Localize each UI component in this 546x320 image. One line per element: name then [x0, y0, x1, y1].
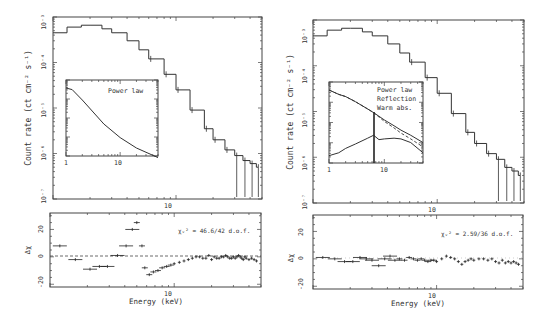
right-inset-xtick-1: 1	[327, 166, 331, 174]
right-res-ytick-neg20: -20	[297, 278, 305, 290]
left-ytick-1e-4: 10⁻⁴	[40, 54, 48, 70]
right-ytick-1e-5: 10⁻⁵	[301, 112, 309, 128]
right-chi2-annotation: χᵥ² = 2.59/36 d.o.f.	[441, 230, 513, 238]
right-residual-ylabel: Δχ	[287, 254, 295, 262]
right-spectrum-panel: Count rate (ct cm⁻² s⁻¹) 10⁻³ 10⁻⁴ 10⁻⁵ …	[286, 20, 524, 308]
right-ylabel: Count rate (ct cm⁻² s⁻¹)	[286, 54, 295, 170]
right-ytick-1e-7: 10⁻⁷	[301, 194, 309, 210]
left-inset-xtick-1: 1	[64, 159, 68, 167]
right-yticks: 10⁻³ 10⁻⁴ 10⁻⁵ 10⁻⁶ 10⁻⁷	[301, 28, 309, 210]
right-inset-xtick-10: 10	[380, 166, 388, 174]
right-inset-label-powerlaw: Power law	[377, 86, 412, 94]
left-ytick-1e-5: 10⁻⁵	[40, 102, 48, 118]
right-ytick-1e-3: 10⁻³	[301, 28, 309, 44]
left-res-ytick-0: 0	[37, 254, 45, 258]
left-ytick-1e-6: 10⁻⁶	[40, 145, 48, 161]
left-main-xtick-10: 10	[164, 202, 172, 210]
left-residual-ylabel: Δχ	[24, 246, 32, 254]
left-residual-ticks	[50, 213, 261, 287]
right-main-xtick-10: 10	[428, 206, 436, 214]
left-inset-xtick-10: 10	[114, 159, 122, 167]
left-spectrum-panel: Count rate (ct cm⁻² s⁻¹) 10⁻³ 10⁻⁴ 10⁻⁵ …	[24, 14, 262, 306]
left-residual-frame	[50, 213, 261, 287]
right-residual-ticks	[313, 215, 523, 289]
left-yticks: 10⁻³ 10⁻⁴ 10⁻⁵ 10⁻⁶ 10⁻⁷	[40, 14, 48, 204]
left-ytick-1e-7: 10⁻⁷	[40, 188, 48, 204]
right-ytick-1e-6: 10⁻⁶	[301, 155, 309, 171]
left-res-ytick-20: 20	[37, 225, 45, 233]
left-inset-label: Power law	[108, 87, 143, 95]
right-inset-label-warmabs: Warm abs.	[377, 104, 412, 112]
right-ytick-1e-4: 10⁻⁴	[301, 68, 309, 84]
left-res-ytick-neg20: -20	[37, 276, 45, 288]
right-inset-label-reflection: Reflection	[377, 95, 416, 103]
right-residual-points	[316, 255, 520, 268]
left-ytick-1e-3: 10⁻³	[40, 14, 48, 30]
left-chi2-annotation: χᵥ² = 46.6/42 d.o.f.	[178, 227, 250, 235]
right-xlabel: Energy (keV)	[391, 299, 445, 308]
left-xlabel: Energy (keV)	[129, 297, 183, 306]
right-residual-frame	[313, 215, 523, 289]
right-res-ytick-20: 20	[297, 228, 305, 236]
right-res-ytick-0: 0	[297, 256, 305, 260]
left-ylabel: Count rate (ct cm⁻² s⁻¹)	[24, 50, 33, 166]
figure-canvas: Count rate (ct cm⁻² s⁻¹) 10⁻³ 10⁻⁴ 10⁻⁵ …	[0, 0, 546, 320]
